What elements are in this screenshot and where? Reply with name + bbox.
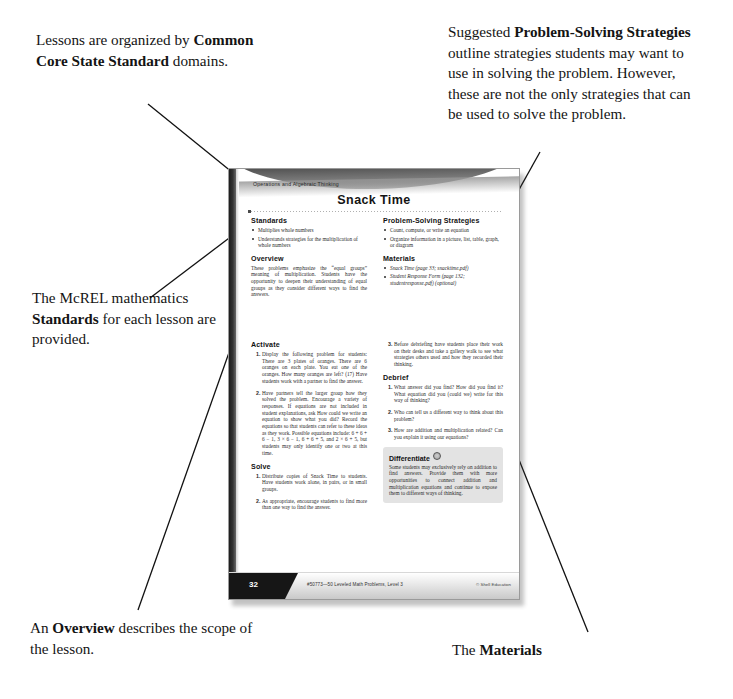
activate-steps-continued: Before debriefing have students place th… <box>383 341 503 368</box>
page-footer: 32 #50773—50 Leveled Math Problems, Leve… <box>229 572 519 599</box>
standards-list: Multiplies whole numbers Understands str… <box>251 227 367 249</box>
standards-column: Standards Multiplies whole numbers Under… <box>251 217 367 298</box>
list-item: Distribute copies of Snack Time to stude… <box>262 473 367 493</box>
callout-text-pre: Suggested <box>448 23 514 40</box>
page-surface: Operations and Algebraic Thinking Snack … <box>228 168 520 600</box>
lesson-page: Operations and Algebraic Thinking Snack … <box>228 168 522 604</box>
footer-center-text: #50773—50 Leveled Math Problems, Level 3 <box>307 582 403 587</box>
callout-text-bold: Problem-Solving Strategies <box>514 23 690 40</box>
footer-copyright: © Shell Education <box>476 582 511 587</box>
callout-materials: The Materials <box>452 640 702 661</box>
callout-text-bold: Standards <box>32 310 99 327</box>
differentiate-heading-label: Differentiate <box>389 455 430 462</box>
list-item: Understands strategies for the multiplic… <box>258 236 367 249</box>
overview-text: These problems emphasize the “equal grou… <box>251 265 367 298</box>
list-item: Have partners tell the larger group how … <box>262 390 367 457</box>
list-item: Snack Time (page 33; snacktime.pdf) <box>390 265 503 272</box>
differentiate-text: Some students may exclusively rely on ad… <box>389 464 497 497</box>
callout-text-post: outline strategies students may want to … <box>448 44 691 123</box>
materials-heading: Materials <box>383 255 503 263</box>
callout-mcrel-standards: The McREL mathematics Standards for each… <box>32 288 242 350</box>
callout-overview: An Overview describes the scope of the l… <box>30 618 260 659</box>
activate-solve-column: Activate Display the following problem f… <box>251 341 367 517</box>
activate-heading: Activate <box>251 341 367 349</box>
standards-heading: Standards <box>251 217 367 225</box>
list-item: Student Response Form (page 132; student… <box>390 273 503 286</box>
debrief-heading: Debrief <box>383 374 503 382</box>
list-item: Before debriefing have students place th… <box>394 341 503 368</box>
differentiate-heading: Differentiate <box>389 452 497 462</box>
callout-text-pre: An <box>30 619 52 636</box>
differentiate-box: Differentiate Some students may exclusiv… <box>383 447 503 503</box>
page-number: 32 <box>249 580 258 589</box>
debrief-steps: What answer did you find? How did you fi… <box>383 384 503 441</box>
callout-text-pre: The <box>452 641 479 658</box>
overview-heading: Overview <box>251 255 367 263</box>
list-item: Who can tell us a different way to think… <box>394 409 503 422</box>
page-spine <box>229 169 236 599</box>
solve-heading: Solve <box>251 463 367 471</box>
figure-canvas: Lessons are organized by Common Core Sta… <box>0 0 733 699</box>
strategies-column: Problem-Solving Strategies Count, comput… <box>383 217 503 293</box>
materials-list: Snack Time (page 33; snacktime.pdf) Stud… <box>383 265 503 287</box>
list-item: How are addition and multiplication rela… <box>394 427 503 440</box>
callout-text-post: domains. <box>169 52 228 69</box>
activate-steps: Display the following problem for studen… <box>251 351 367 457</box>
list-item: Count, compute, or write an equation <box>390 227 503 234</box>
domain-eyebrow: Operations and Algebraic Thinking <box>253 181 339 187</box>
callout-text-pre: Lessons are organized by <box>36 31 193 48</box>
strategies-heading: Problem-Solving Strategies <box>383 217 503 225</box>
list-item: What answer did you find? How did you fi… <box>394 384 503 404</box>
lesson-title: Snack Time <box>229 193 519 207</box>
circle-icon <box>433 452 441 460</box>
title-rule <box>251 211 501 212</box>
callout-common-core: Lessons are organized by Common Core Sta… <box>36 30 266 71</box>
list-item: Multiplies whole numbers <box>258 227 367 234</box>
list-item: As appropriate, encourage students to fi… <box>262 498 367 511</box>
callout-problem-solving-strategies: Suggested Problem-Solving Strategies out… <box>448 22 706 125</box>
callout-text-pre: The McREL mathematics <box>32 289 188 306</box>
page-spine-highlight <box>236 169 239 599</box>
strategies-list: Count, compute, or write an equation Org… <box>383 227 503 249</box>
debrief-column: Before debriefing have students place th… <box>383 341 503 503</box>
list-item: Display the following problem for studen… <box>262 351 367 385</box>
callout-text-bold: Materials <box>479 641 541 658</box>
callout-text-bold: Overview <box>52 619 114 636</box>
solve-steps: Distribute copies of Snack Time to stude… <box>251 473 367 512</box>
list-item: Organize information in a picture, list,… <box>390 236 503 249</box>
